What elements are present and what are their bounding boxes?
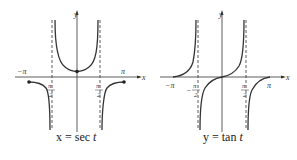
point-pi (122, 80, 126, 84)
caption-tan: y = tan t (203, 130, 243, 145)
tan-labels: y x −π π − π 2 π 2 (165, 10, 290, 99)
tick-neg-half-pi-num: π (193, 82, 197, 90)
caption-tan-var: t (239, 130, 242, 144)
tick-pi: π (121, 67, 126, 76)
tick-neg-pi: −π (165, 81, 175, 90)
tick-neg-sign: − (186, 86, 191, 95)
tan-curve-left (173, 20, 196, 77)
sec-labels: y x −π π π 2 π 2 (17, 10, 146, 99)
tick-half-pi-num: π (242, 82, 246, 90)
tick-neg-half-pi-den: 2 (49, 91, 53, 99)
tick-half-pi-den: 2 (97, 91, 101, 99)
x-label: x (285, 73, 290, 82)
tick-half-pi-den: 2 (243, 91, 247, 99)
y-label: y (73, 10, 78, 19)
caption-sec: x = sec t (56, 130, 96, 145)
tick-neg-half-pi-num: π (48, 82, 52, 90)
caption-tan-text: y = tan (203, 130, 236, 144)
caption-sec-text: x = sec (56, 130, 90, 144)
tick-neg-half-pi-den: 2 (194, 91, 198, 99)
caption-sec-var: t (93, 130, 96, 144)
tick-half-pi-num: π (96, 82, 100, 90)
tick-neg-pi: −π (17, 67, 27, 76)
x-label: x (141, 73, 146, 82)
tan-graph (160, 10, 286, 132)
y-label: y (218, 10, 223, 19)
point-0 (75, 70, 79, 74)
figure: y x −π π π 2 π 2 y x −π π − π 2 π 2 (0, 0, 297, 160)
sec-curve-right (102, 82, 124, 130)
tick-pi: π (267, 81, 272, 90)
sec-curve-center (55, 20, 98, 72)
sec-curve-left (29, 82, 50, 130)
point-neg-pi (27, 80, 31, 84)
